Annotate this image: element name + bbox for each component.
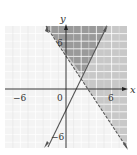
tick-label-y-neg6: −6 bbox=[51, 132, 65, 142]
inequality-graph: x y −6 0 6 6 −6 bbox=[0, 0, 137, 155]
tick-label-x-neg6: −6 bbox=[13, 93, 27, 103]
x-axis-label: x bbox=[130, 84, 136, 95]
y-axis-label: y bbox=[59, 13, 66, 24]
tick-label-origin: 0 bbox=[57, 93, 63, 103]
tick-label-y-pos6: 6 bbox=[57, 38, 63, 48]
tick-label-x-pos6: 6 bbox=[108, 93, 114, 103]
